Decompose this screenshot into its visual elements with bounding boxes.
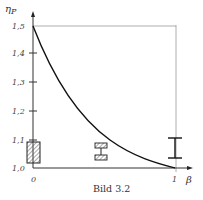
y-tick-1-4: 1,4: [12, 49, 25, 58]
i-section-hatched-icon: [95, 143, 107, 160]
rectangle-section-icon: [27, 142, 40, 163]
figure-caption: Bild 3.2: [93, 183, 130, 194]
i-section-thin-icon: [168, 138, 182, 158]
y-axis-arrow-icon: [31, 11, 35, 17]
y-tick-1-0: 1,0: [12, 164, 25, 173]
chart: 1,5 1,4 1,3 1,2 1,1 1,0 0 1 ηP β Bild 3.…: [0, 0, 203, 200]
y-tick-1-3: 1,3: [12, 78, 25, 87]
y-tick-1-2: 1,2: [12, 107, 25, 116]
x-axis-label: β: [185, 174, 192, 185]
y-axis-label: ηP: [5, 3, 17, 16]
x-tick-1: 1: [172, 175, 177, 184]
x-axis-arrow-icon: [187, 166, 193, 170]
y-tick-1-1: 1,1: [12, 136, 25, 145]
x-tick-0: 0: [31, 175, 36, 184]
y-tick-1-5: 1,5: [12, 22, 25, 31]
